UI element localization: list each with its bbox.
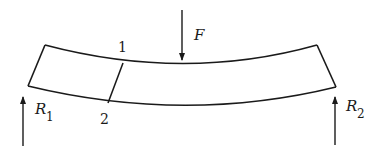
- beam-right-end: [317, 45, 336, 87]
- force-label: F: [193, 26, 205, 44]
- section-label-bottom: 2: [100, 111, 109, 127]
- reaction-left-label: R 1: [34, 100, 54, 124]
- reaction-right-label-main: R: [345, 97, 357, 115]
- reaction-left-label-main: R: [34, 100, 46, 118]
- beam-bottom-edge: [28, 86, 336, 105]
- beam-top-edge: [45, 45, 317, 64]
- reaction-right-label-sub: 2: [357, 107, 365, 121]
- diagram-svg: F 1 2 R 1 R 2: [0, 0, 382, 153]
- beam-left-end: [28, 45, 45, 86]
- reaction-left-label-sub: 1: [46, 110, 54, 124]
- beam-diagram: F 1 2 R 1 R 2: [0, 0, 382, 153]
- reaction-right-label: R 2: [345, 97, 365, 121]
- section-label-top: 1: [118, 39, 127, 55]
- section-line-1-2: [108, 63, 123, 103]
